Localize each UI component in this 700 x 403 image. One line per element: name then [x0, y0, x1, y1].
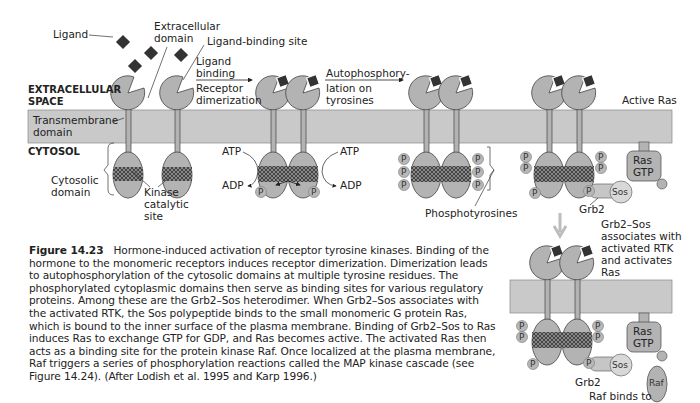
phosphate-label: P: [475, 180, 481, 190]
plasma-membrane-upper: [28, 110, 672, 143]
cytosolic-domain-label-2: domain: [51, 186, 90, 198]
grb2-sos-note: Grb2–Sos: [601, 218, 651, 230]
extracellular-domain-label-2: domain: [154, 32, 193, 44]
phosphate-label: P: [475, 154, 481, 164]
grb2-sos-note-2: associates with: [601, 230, 682, 242]
cytosol-label: CYTOSOL: [28, 146, 81, 157]
phosphate-label: P: [595, 332, 601, 342]
phosphate-label: P: [530, 359, 536, 369]
kinase-catalytic-site-label-2: catalytic: [144, 198, 189, 210]
ras-label-lower: Ras: [633, 325, 652, 337]
phosphate-label: P: [586, 358, 592, 368]
transition-arrow-down: [554, 213, 566, 236]
phosphate-label: P: [519, 321, 525, 331]
caption-text: Hormone-induced activation of receptor t…: [29, 244, 496, 382]
ligand-label: Ligand: [53, 28, 88, 40]
ras-label: Ras: [633, 154, 652, 166]
grb2-label-lower: Grb2: [575, 376, 601, 388]
adp-label-right: ADP: [340, 179, 362, 191]
kinase-catalytic-site-label: Kinase: [144, 186, 179, 198]
cytosolic-domain-label: Cytosolic: [51, 174, 99, 186]
phosphate-label: P: [519, 332, 525, 342]
grb2-sos-note-4: and activates: [601, 254, 672, 266]
phosphate-label: P: [523, 152, 529, 162]
receptor-dimerization-label: Receptor: [196, 82, 244, 94]
transmembrane-domain-label-2: domain: [33, 126, 72, 138]
raf-label: Raf: [649, 378, 665, 388]
phosphotyrosines-label: Phosphotyrosines: [425, 207, 517, 219]
autophosphorylation-label-3: tyrosines: [326, 94, 374, 106]
grb2-sos-note-3: activated RTK: [601, 242, 674, 254]
gtp-label-lower: GTP: [633, 337, 654, 349]
atp-label-right: ATP: [340, 145, 359, 157]
phosphate-label: P: [532, 188, 538, 198]
ligand-binding-label: Ligand: [196, 55, 231, 67]
raf-binds-label: Raf binds to: [589, 390, 652, 402]
ligand-binding-site-label: Ligand-binding site: [207, 35, 307, 47]
extracellular-domain-label: Extracellular: [154, 20, 221, 32]
active-ras-label: Active Ras: [622, 94, 677, 106]
phosphate-label: P: [523, 163, 529, 173]
phosphate-label: P: [401, 180, 407, 190]
autophosphorylation-label-2: lation on: [326, 82, 372, 94]
grb2-label: Grb2: [579, 203, 605, 215]
gtp-label: GTP: [633, 166, 654, 178]
phosphate-label: P: [475, 167, 481, 177]
kinase-catalytic-site-label-3: site: [144, 210, 163, 222]
phosphate-label: P: [401, 154, 407, 164]
ligand-binding-label-2: binding: [196, 67, 235, 79]
plasma-membrane-lower: [510, 280, 672, 313]
phosphate-label: P: [258, 187, 264, 197]
adp-label-left: ADP: [222, 179, 244, 191]
autophosphorylation-label: Autophosphory-: [326, 67, 410, 79]
atp-label-left: ATP: [222, 145, 241, 157]
sos-label-lower: Sos: [612, 360, 628, 370]
figure-number: Figure 14.23: [29, 244, 103, 256]
receptor-dimerization-label-2: dimerization: [196, 94, 262, 106]
transmembrane-domain-label: Transmembrane: [32, 114, 118, 126]
phosphate-label: P: [598, 152, 604, 162]
phosphate-label: P: [311, 187, 317, 197]
phosphate-label: P: [586, 186, 592, 196]
sos-label: Sos: [612, 187, 628, 197]
extracellular-space-label: EXTRACELLULAR: [28, 84, 122, 95]
phosphate-label: P: [598, 163, 604, 173]
extracellular-space-label-2: SPACE: [28, 96, 64, 107]
grb2-sos-note-5: Ras: [601, 266, 620, 278]
figure-caption: Figure 14.23Hormone-induced activation o…: [29, 244, 499, 383]
phosphate-label: P: [595, 321, 601, 331]
phosphate-label: P: [401, 167, 407, 177]
